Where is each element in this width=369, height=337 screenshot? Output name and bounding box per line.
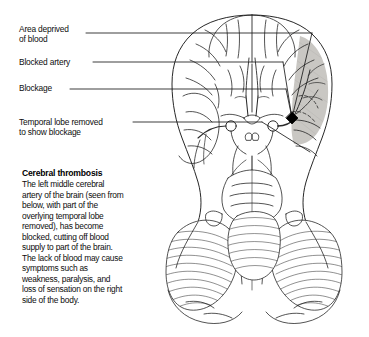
cerebral-thrombosis-figure: Area deprived of blood Blocked artery Bl… bbox=[0, 0, 369, 337]
callout-temporal-lobe: Temporal lobe removed to show blockage bbox=[19, 117, 103, 137]
caption-body: The left middle cerebral artery of the b… bbox=[22, 179, 126, 306]
callout-blocked-artery: Blocked artery bbox=[19, 57, 70, 67]
caption-title: Cerebral thrombosis bbox=[22, 168, 126, 179]
caption-block: Cerebral thrombosis The left middle cere… bbox=[22, 168, 126, 306]
callout-area-deprived: Area deprived of blood bbox=[19, 24, 69, 44]
callout-blockage: Blockage bbox=[19, 83, 52, 93]
